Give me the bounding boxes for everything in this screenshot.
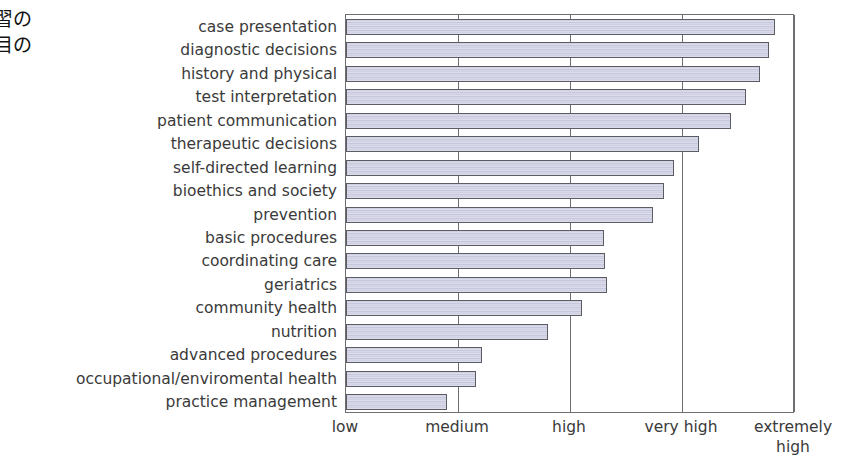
bar: [346, 66, 760, 82]
category-label: case presentation: [198, 19, 337, 35]
category-label: history and physical: [181, 66, 337, 82]
category-label: occupational/enviromental health: [76, 371, 337, 387]
bar: [346, 160, 674, 176]
category-label: test interpretation: [196, 89, 337, 105]
bar: [346, 347, 482, 363]
category-label: coordinating care: [201, 253, 337, 269]
x-tick-label: medium: [425, 417, 489, 437]
bar: [346, 230, 604, 246]
gridline-4: [794, 15, 795, 412]
category-label: advanced procedures: [170, 347, 337, 363]
bar: [346, 42, 769, 58]
bar: [346, 136, 699, 152]
bar: [346, 113, 731, 129]
bar: [346, 324, 548, 340]
bar: [346, 300, 582, 316]
category-label: bioethics and society: [173, 183, 337, 199]
category-label: practice management: [166, 394, 337, 410]
x-tick-label: extremelyhigh: [747, 417, 839, 457]
bar: [346, 277, 607, 293]
category-label: community health: [196, 300, 337, 316]
chart-page: 習の 目の case presentationdiagnostic decisi…: [0, 0, 843, 462]
bar: [346, 253, 605, 269]
category-label: therapeutic decisions: [171, 136, 337, 152]
category-label: basic procedures: [205, 230, 337, 246]
category-label: prevention: [253, 207, 337, 223]
bar: [346, 207, 653, 223]
plot-area: [345, 14, 794, 413]
category-label: self-directed learning: [173, 160, 337, 176]
bar: [346, 19, 775, 35]
bar: [346, 89, 746, 105]
category-axis-labels: case presentationdiagnostic decisionshis…: [10, 14, 341, 413]
bar: [346, 371, 476, 387]
x-tick-label: high: [552, 417, 586, 437]
x-tick-label: low: [332, 417, 358, 437]
category-label: diagnostic decisions: [180, 42, 337, 58]
category-label: patient communication: [157, 113, 337, 129]
bar: [346, 183, 664, 199]
bar: [346, 394, 447, 410]
category-label: nutrition: [271, 324, 337, 340]
x-axis-tick-labels: lowmediumhighvery highextremelyhigh: [345, 417, 794, 462]
x-tick-label: very high: [645, 417, 718, 437]
category-label: geriatrics: [264, 277, 337, 293]
